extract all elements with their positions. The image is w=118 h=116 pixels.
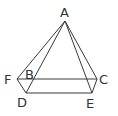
label-F: F	[4, 72, 11, 87]
vertex-labels: A B C D E F	[4, 5, 108, 111]
edge-A-C	[65, 21, 97, 79]
pyramid-diagram: A B C D E F	[0, 0, 118, 116]
label-E: E	[86, 96, 94, 111]
label-A: A	[60, 5, 69, 20]
edge-C-E	[92, 79, 97, 93]
edge-A-E	[65, 21, 92, 93]
label-C: C	[99, 72, 108, 87]
edges	[17, 21, 97, 93]
label-B: B	[25, 67, 34, 82]
edge-A-D	[26, 21, 65, 93]
label-D: D	[17, 95, 27, 110]
